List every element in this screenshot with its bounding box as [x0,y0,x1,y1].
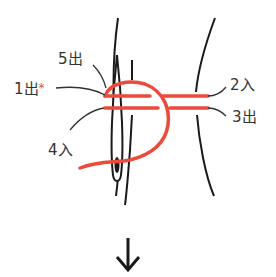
asterisk-mark: * [39,81,45,95]
leader-4 [70,108,104,130]
leader-5 [93,65,106,88]
fabric-right-edge-bottom [197,115,214,196]
label-step4: 4入 [48,143,73,158]
label-step5: 5出 [58,52,83,67]
leader-1 [56,87,105,95]
stitch-illustration [0,0,276,277]
label-step3: 3出 [232,110,257,125]
fabric-right-edge-top [196,18,215,92]
leader-3 [208,108,226,116]
stitch-diagram: 5出 1出* 4入 2入 3出 [0,0,276,277]
thread [80,82,208,168]
down-arrow-icon [117,238,139,270]
label-step1: 1出* [14,82,45,97]
label-step1-text: 1出 [14,80,39,98]
leader-2 [208,87,226,96]
label-step2: 2入 [230,78,255,93]
